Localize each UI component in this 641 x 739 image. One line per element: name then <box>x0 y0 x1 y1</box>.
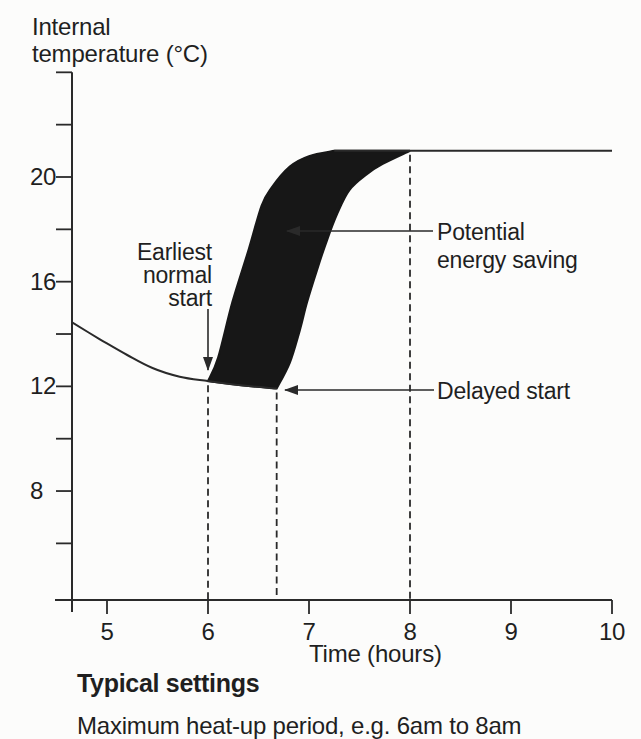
figure-optimum-start-chart: Internal temperature (°C) Earliest norma… <box>0 0 641 739</box>
x-tick-label: 5 <box>87 619 127 645</box>
x-tick-label: 9 <box>491 619 531 645</box>
y-tick-label: 12 <box>30 373 56 399</box>
y-tick-label: 20 <box>30 164 56 190</box>
footer-note: Maximum heat-up period, e.g. 6am to 8am <box>77 712 521 739</box>
y-axis-title: Internal temperature (°C) <box>32 13 208 67</box>
x-tick-label: 10 <box>592 619 632 645</box>
annotation-potential-energy-saving: Potential energy saving <box>437 218 578 274</box>
y-tick-label: 16 <box>30 269 56 295</box>
y-tick-label: 8 <box>30 478 43 504</box>
annotation-delayed-start: Delayed start <box>437 378 570 404</box>
x-tick-label: 7 <box>289 619 329 645</box>
potential-energy-saving-area <box>208 151 410 389</box>
x-tick-label: 6 <box>188 619 228 645</box>
annotation-earliest-normal-start: Earliest normal start <box>137 241 212 310</box>
footer-heading: Typical settings <box>77 670 259 697</box>
x-tick-label: 8 <box>390 619 430 645</box>
